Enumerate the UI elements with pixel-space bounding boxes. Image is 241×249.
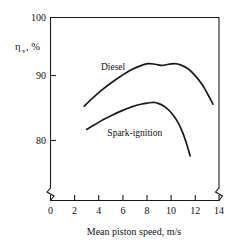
y-tick-label-80: 80	[36, 135, 46, 146]
x-tick-label-10: 10	[166, 205, 176, 216]
x-tick-label-4: 4	[96, 205, 101, 216]
x-tick-label-14: 14	[214, 205, 224, 216]
series-label-spark-ignition: Spark-ignition	[107, 128, 162, 138]
x-tick-label-0: 0	[48, 205, 53, 216]
series-label-diesel: Diesel	[101, 62, 126, 72]
x-tick-label-6: 6	[120, 205, 125, 216]
y-axis-title-units: , %	[26, 41, 40, 52]
chart-container: 0 2 4 6 8 10 12 14 100 90 80 η v , % M	[0, 0, 241, 249]
volumetric-efficiency-chart: 0 2 4 6 8 10 12 14 100 90 80 η v , % M	[0, 0, 241, 249]
y-tick-label-100: 100	[31, 12, 46, 23]
x-tick-label-8: 8	[145, 205, 150, 216]
y-tick-label-90: 90	[36, 70, 46, 81]
x-tick-label-12: 12	[190, 205, 200, 216]
y-axis-title-symbol: η	[15, 41, 21, 52]
x-tick-label-2: 2	[72, 205, 77, 216]
x-axis-title: Mean piston speed, m/s	[87, 226, 182, 237]
